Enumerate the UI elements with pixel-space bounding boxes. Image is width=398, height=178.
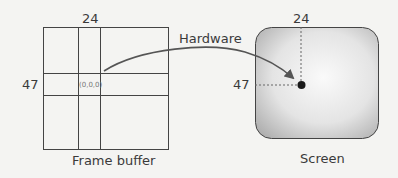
- frame-buffer-caption: Frame buffer: [72, 153, 155, 168]
- hardware-label: Hardware: [179, 31, 242, 46]
- screen-x-label: 24: [293, 11, 310, 26]
- frame-buffer-col-label: 24: [82, 11, 99, 26]
- frame-buffer-row-label: 47: [22, 77, 39, 92]
- frame-buffer-grid: [44, 28, 169, 150]
- screen-y-label: 47: [233, 77, 250, 92]
- frame-buffer-cell-value: (0,0,0): [79, 81, 102, 89]
- pixel-dot: [298, 81, 306, 89]
- screen-caption: Screen: [300, 151, 345, 166]
